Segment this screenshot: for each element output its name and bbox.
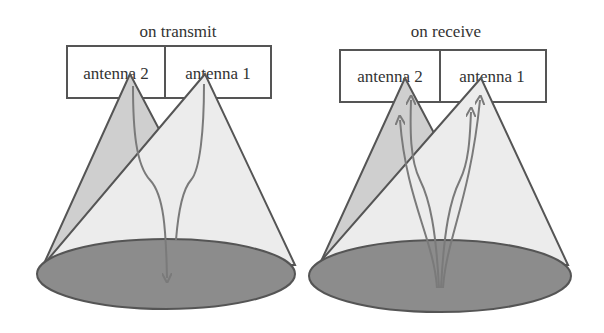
panel-title: on receive: [411, 22, 481, 41]
antenna-2-label: antenna 2: [83, 64, 149, 83]
antenna-box-group: antenna 2 antenna 1: [67, 46, 271, 98]
beam-cone-antenna-1: [320, 78, 568, 265]
diagram-canvas: on transmit antenna 2 antenna 1 on recei…: [0, 0, 604, 333]
panel-transmit: on transmit antenna 2 antenna 1: [37, 22, 295, 309]
panel-receive: on receive antenna 2 antenna 1: [309, 22, 571, 312]
antenna-1-label: antenna 1: [185, 64, 251, 83]
antenna-2-label: antenna 2: [357, 67, 423, 86]
panel-title: on transmit: [140, 22, 217, 41]
coverage-ground-ellipse: [309, 240, 571, 312]
antenna-1-label: antenna 1: [459, 67, 525, 86]
antenna-box-group: antenna 2 antenna 1: [340, 50, 546, 102]
beam-cone-antenna-1: [45, 74, 295, 265]
